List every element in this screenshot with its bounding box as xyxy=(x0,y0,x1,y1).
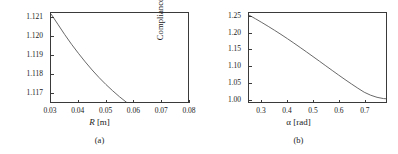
y-tick-mark xyxy=(249,66,252,67)
y-tick-label: 1.119 xyxy=(0,51,46,59)
y-tick-label: 1.25 xyxy=(198,12,244,20)
x-tick-mark xyxy=(50,100,51,103)
plot-area-a xyxy=(50,12,189,103)
panel-caption-a: (a) xyxy=(0,135,199,145)
x-tick-mark xyxy=(339,100,340,103)
y-tick-label: 1.10 xyxy=(198,62,244,70)
y-tick-label: 1.117 xyxy=(0,89,46,97)
x-tick-mark xyxy=(365,100,366,103)
y-tick-mark xyxy=(51,93,54,94)
y-tick-label: 1.120 xyxy=(0,32,46,40)
figure-container: Compliance ratio 1.1171.1181.1191.1201.1… xyxy=(0,0,398,154)
y-tick-mark xyxy=(249,83,252,84)
panel-b: Compliance ratio 1.001.051.101.151.201.2… xyxy=(199,0,398,154)
panel-caption-b: (b) xyxy=(199,135,398,145)
y-tick-mark xyxy=(51,55,54,56)
y-tick-mark xyxy=(51,36,54,37)
y-tick-label: 1.00 xyxy=(198,96,244,104)
data-curve-a xyxy=(51,14,188,102)
x-tick-mark xyxy=(106,100,107,103)
x-tick-mark xyxy=(78,100,79,103)
y-tick-label: 1.20 xyxy=(198,29,244,37)
y-tick-label: 1.121 xyxy=(0,13,46,21)
y-tick-mark xyxy=(249,49,252,50)
x-tick-mark xyxy=(287,100,288,103)
x-axis-symbol-a: R xyxy=(89,117,95,127)
y-tick-mark xyxy=(249,16,252,17)
y-tick-label: 1.15 xyxy=(198,45,244,53)
y-tick-label: 1.05 xyxy=(198,79,244,87)
x-axis-label-a: R [m] xyxy=(0,117,199,127)
x-tick-label: 0.7 xyxy=(348,106,382,115)
y-tick-mark xyxy=(51,17,54,18)
y-tick-label: 1.118 xyxy=(0,70,46,78)
x-axis-unit-a: [m] xyxy=(97,117,110,127)
y-axis-label-b: Compliance ratio xyxy=(153,0,167,64)
x-tick-mark xyxy=(261,100,262,103)
y-tick-mark xyxy=(249,33,252,34)
x-tick-mark xyxy=(313,100,314,103)
x-axis-unit-b: [rad] xyxy=(293,117,311,127)
y-tick-mark xyxy=(51,74,54,75)
x-tick-mark xyxy=(189,100,190,103)
x-tick-mark xyxy=(161,100,162,103)
plot-curve-a-svg xyxy=(51,13,188,102)
y-tick-mark xyxy=(249,100,252,101)
data-curve-b xyxy=(249,15,386,99)
plot-area-b xyxy=(248,12,387,103)
x-tick-mark xyxy=(133,100,134,103)
plot-curve-b-svg xyxy=(249,13,386,102)
x-axis-label-b: α [rad] xyxy=(199,117,398,127)
x-axis-symbol-b: α xyxy=(286,117,291,127)
panel-a: Compliance ratio 1.1171.1181.1191.1201.1… xyxy=(0,0,199,154)
